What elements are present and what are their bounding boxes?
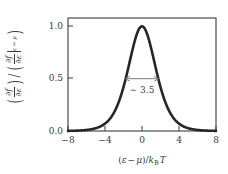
svg-text:(ε−μ)/kBT: (ε−μ)/kBT — [118, 155, 167, 167]
x-label-epsilon: ε — [122, 155, 127, 165]
x-tick-label-2: 0 — [139, 135, 145, 145]
y-tick-marks — [68, 26, 73, 131]
y-tick-label-0: 0.0 — [49, 126, 64, 136]
y-tick-label-1: 0.5 — [49, 73, 64, 83]
x-tick-label-1: −4 — [98, 135, 112, 145]
x-axis-label: (ε−μ)/kBT — [118, 155, 167, 167]
x-label-k-sub: B — [154, 159, 159, 167]
x-tick-label-4: 8 — [213, 135, 219, 145]
plot-frame — [68, 18, 216, 131]
x-tick-label-3: 4 — [176, 135, 182, 145]
y-tick-label-2: 1.0 — [49, 21, 64, 31]
x-tick-label-0: −8 — [61, 135, 75, 145]
fwhm-arrow — [126, 76, 159, 81]
plot-canvas: −8 −4 0 4 8 0.0 0.5 1.0 ∼ 3.5 (ε−μ)/kBT — [0, 0, 228, 174]
x-label-minus: − — [128, 155, 136, 165]
x-label-T: T — [160, 155, 167, 165]
figure-container: −8 −4 0 4 8 0.0 0.5 1.0 ∼ 3.5 (ε−μ)/kBT … — [0, 0, 228, 174]
fwhm-label: ∼ 3.5 — [130, 85, 155, 95]
